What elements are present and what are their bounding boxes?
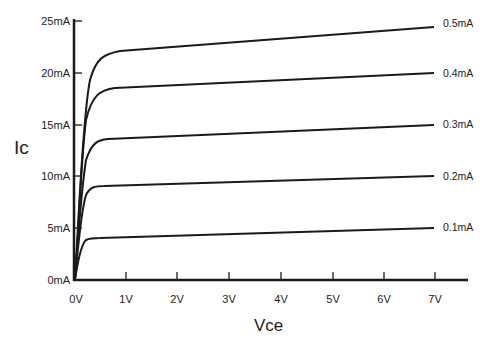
y-tick-label: 0mA	[47, 274, 70, 286]
x-tick-label: 7V	[428, 293, 442, 305]
curve-0.4mA	[75, 73, 434, 277]
series-label: 0.1mA	[443, 221, 473, 233]
x-tick-label: 5V	[326, 293, 340, 305]
ic-vce-chart: 25mA 20mA 15mA 10mA 5mA 0mA 0V 1V 2V 3V …	[0, 0, 489, 341]
y-tick-label: 5mA	[47, 222, 70, 234]
x-axis-title: Vce	[254, 316, 283, 335]
series-label: 0.4mA	[443, 67, 473, 79]
x-tick-label: 0V	[69, 293, 83, 305]
y-tick-label: 20mA	[41, 67, 70, 79]
y-tick-label: 25mA	[41, 15, 70, 27]
series-label: 0.2mA	[443, 170, 473, 182]
y-axis-title: Ic	[14, 137, 29, 158]
series-label: 0.3mA	[443, 118, 473, 130]
curve-0.2mA	[75, 176, 434, 279]
x-tick-label: 6V	[377, 293, 391, 305]
x-tick-label: 3V	[222, 293, 236, 305]
y-tick-label: 10mA	[41, 170, 70, 182]
curves	[75, 27, 434, 279]
y-tick-label: 15mA	[41, 119, 70, 131]
x-tick-label: 1V	[119, 293, 133, 305]
curve-0.1mA	[75, 228, 434, 279]
series-label: 0.5mA	[443, 17, 473, 29]
curve-0.3mA	[75, 125, 434, 278]
x-tick-label: 2V	[170, 293, 184, 305]
x-tick-label: 4V	[274, 293, 288, 305]
